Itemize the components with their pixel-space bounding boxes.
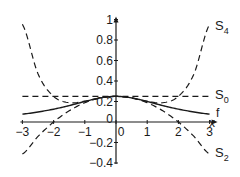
y-tick-label: −0.4 (89, 156, 113, 170)
x-tick-label: −3 (16, 125, 30, 139)
x-tick-label: −2 (47, 125, 61, 139)
x-tick-label: 2 (175, 125, 182, 139)
axes: −3−2−10123−0.4−0.200.20.40.60.81 (16, 13, 218, 171)
x-tick-label: 1 (144, 125, 151, 139)
label-s2: S2 (215, 145, 229, 163)
y-tick-label: 0.4 (96, 74, 113, 88)
x-axis-label: x (209, 116, 215, 130)
label-s4: S4 (215, 18, 229, 36)
label-s0: S0 (215, 87, 229, 105)
series-labels: S4 S0 f S2 x (209, 18, 229, 163)
taylor-polynomial-chart: −3−2−10123−0.4−0.200.20.40.60.81 S4 S0 f… (0, 0, 240, 177)
label-f: f (216, 106, 220, 120)
y-tick-label: 0 (106, 112, 113, 126)
y-tick-label: 0.6 (96, 54, 113, 68)
x-tick-label: 0 (118, 125, 125, 139)
y-tick-label: −0.2 (89, 136, 113, 150)
y-tick-label: 1 (106, 13, 113, 27)
y-tick-label: 0.8 (96, 33, 113, 47)
